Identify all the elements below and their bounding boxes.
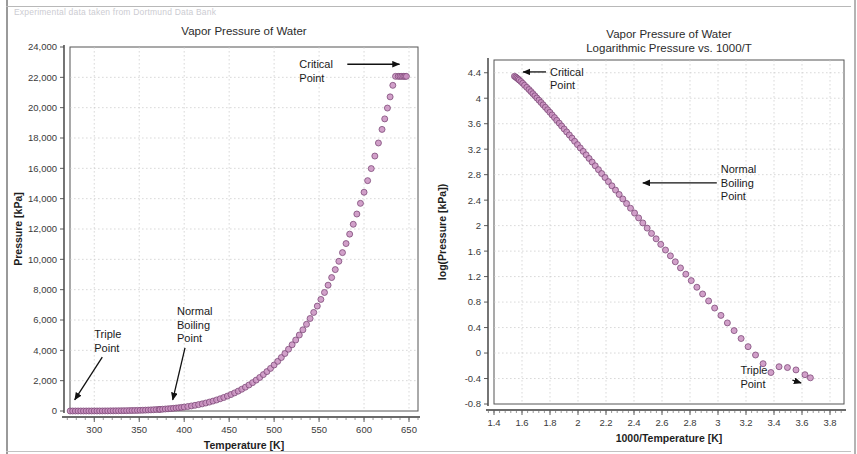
x-tick-label: 3.8 [823, 417, 836, 428]
data-point [636, 215, 642, 221]
y-tick-label: 2.8 [468, 169, 481, 180]
annotation-label: Point [299, 72, 324, 84]
x-axis-title: Temperature [K] [204, 439, 284, 451]
y-tick-label: 2.4 [468, 195, 481, 206]
data-point [712, 305, 718, 311]
data-point [658, 241, 664, 247]
y-tick-label: 12,000 [28, 223, 57, 234]
chart-left-canvas: Vapor Pressure of Water02,0004,0006,0008… [8, 0, 432, 454]
y-tick-label: 16,000 [28, 163, 57, 174]
x-tick-label: 2.4 [627, 417, 640, 428]
x-tick-label: 500 [266, 424, 282, 435]
x-tick-label: 2.6 [655, 417, 668, 428]
y-tick-label: 0.8 [468, 296, 481, 307]
x-tick-label: 300 [86, 424, 102, 435]
x-tick-label: 400 [176, 424, 192, 435]
data-point [354, 211, 360, 217]
data-point [347, 231, 353, 237]
data-point [387, 94, 393, 100]
data-point [325, 282, 331, 288]
annotation-label: Boiling [721, 177, 754, 189]
chart-right-canvas: Vapor Pressure of WaterLogarithmic Press… [432, 0, 855, 454]
y-tick-label: 3.6 [468, 118, 481, 129]
x-tick-label: 450 [221, 424, 237, 435]
x-tick-label: 3.2 [739, 417, 752, 428]
data-point [632, 210, 638, 216]
x-tick-label: 350 [131, 424, 147, 435]
y-axis-title: Pressure [kPa] [12, 192, 24, 266]
x-tick-label: 3 [715, 417, 720, 428]
annotation-label: Point [550, 79, 575, 91]
annotation-label: Triple [94, 328, 121, 340]
data-point [672, 259, 678, 265]
x-tick-label: 1.4 [487, 417, 500, 428]
data-point [365, 178, 371, 184]
y-tick-label: 4 [476, 93, 481, 104]
data-point [776, 364, 782, 370]
x-axis-title: 1000/Temperature [K] [616, 432, 723, 444]
data-point [653, 236, 659, 242]
data-point [738, 336, 744, 342]
y-tick-label: 24,000 [28, 41, 57, 52]
annotation-label: Point [721, 190, 746, 202]
x-tick-label: 3.6 [795, 417, 808, 428]
data-point [677, 265, 683, 271]
data-point [663, 247, 669, 253]
y-tick-label: 0 [52, 405, 57, 416]
data-point [384, 105, 390, 111]
y-tick-label: 4,000 [33, 345, 57, 356]
data-point [311, 309, 317, 315]
y-tick-label: 3.2 [468, 144, 481, 155]
y-tick-label: 4.4 [468, 67, 481, 78]
y-tick-label: -0.4 [465, 373, 481, 384]
y-tick-label: 1.2 [468, 271, 481, 282]
data-point [649, 230, 655, 236]
data-point [700, 291, 706, 297]
annotation-label: Normal [177, 305, 212, 317]
y-tick-label: 18,000 [28, 132, 57, 143]
data-point [644, 225, 650, 231]
x-tick-label: 2.2 [599, 417, 612, 428]
x-tick-label: 650 [401, 424, 417, 435]
data-point [784, 365, 790, 371]
data-point [329, 275, 335, 281]
data-point [706, 298, 712, 304]
data-point [683, 271, 689, 277]
chart-vapor-pressure-linear: Vapor Pressure of Water02,0004,0006,0008… [8, 0, 432, 454]
chart-title: Vapor Pressure of Water [606, 28, 731, 40]
data-point [318, 296, 324, 302]
data-point [372, 153, 378, 159]
data-point [753, 352, 759, 358]
data-point [390, 82, 396, 88]
y-axis-title: log(Pressure [kPa]) [436, 184, 448, 280]
data-point [382, 116, 388, 122]
data-point [768, 370, 774, 376]
annotation: TriplePoint [94, 328, 121, 354]
data-point [304, 321, 310, 327]
data-point [343, 241, 349, 247]
y-tick-label: 14,000 [28, 193, 57, 204]
y-tick-label: 20,000 [28, 102, 57, 113]
y-tick-label: 2,000 [33, 375, 57, 386]
annotation-label: Boiling [177, 319, 210, 331]
chart-title: Vapor Pressure of Water [181, 25, 306, 37]
data-point [640, 220, 646, 226]
annotation-label: Point [177, 332, 202, 344]
figure-page: Experimental data taken from Dortmund Da… [0, 0, 857, 454]
data-point [731, 328, 737, 334]
data-point [793, 367, 799, 373]
x-tick-label: 550 [311, 424, 327, 435]
y-tick-label: 1.6 [468, 246, 481, 257]
x-tick-label: 2 [575, 417, 580, 428]
y-tick-label: 2 [476, 220, 481, 231]
data-point [688, 278, 694, 284]
data-point [368, 166, 374, 172]
data-point [336, 258, 342, 264]
annotation-label: Triple [740, 364, 767, 376]
y-tick-label: 6,000 [33, 314, 57, 325]
annotation: TriplePoint [740, 364, 767, 390]
data-point [357, 200, 363, 206]
x-tick-label: 600 [356, 424, 372, 435]
x-tick-label: 1.8 [543, 417, 556, 428]
data-point [745, 344, 751, 350]
